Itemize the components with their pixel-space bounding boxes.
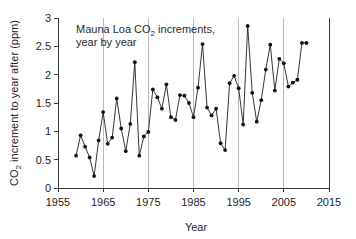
data-point: [255, 120, 259, 124]
data-point: [250, 91, 254, 95]
data-point: [300, 41, 304, 45]
y-axis-title: CO2 increment to year after (ppm): [8, 20, 23, 186]
co2-increment-series-line: [76, 26, 306, 176]
data-point: [196, 86, 200, 90]
data-point: [101, 110, 105, 114]
x-tick-label-2015: 2015: [317, 196, 341, 208]
data-point: [97, 139, 101, 143]
data-point: [119, 127, 123, 131]
y-tick-marks-group: [54, 18, 58, 188]
y-tick-labels-group: 00.511.522.53: [36, 12, 51, 194]
data-point: [282, 61, 286, 65]
data-point: [291, 81, 295, 85]
data-point: [110, 136, 114, 140]
data-point: [146, 130, 150, 134]
data-point: [295, 78, 299, 82]
data-point: [74, 154, 78, 158]
x-tick-label-2005: 2005: [272, 196, 296, 208]
data-point: [286, 85, 290, 89]
data-point: [241, 123, 245, 127]
data-point: [205, 106, 209, 110]
data-point: [187, 101, 191, 105]
data-point: [169, 115, 173, 119]
co2-increment-line-chart: 00.511.522.53 19551965197519851995200520…: [0, 0, 356, 239]
data-point: [305, 41, 309, 45]
x-tick-marks-group: [58, 188, 329, 192]
data-point: [183, 94, 187, 98]
data-point: [155, 95, 159, 99]
x-tick-label-1975: 1975: [136, 196, 160, 208]
y-tick-label-2: 2: [45, 69, 51, 81]
data-point: [268, 43, 272, 47]
y-tick-label-1.5: 1.5: [36, 97, 51, 109]
x-tick-label-1995: 1995: [226, 196, 250, 208]
x-tick-labels-group: 1955196519751985199520052015: [46, 196, 341, 208]
data-point: [214, 107, 218, 111]
data-point: [79, 133, 83, 137]
x-tick-label-1965: 1965: [91, 196, 115, 208]
chart-annotation-line-2: year by year: [76, 36, 137, 48]
chart-figure: 00.511.522.53 19551965197519851995200520…: [0, 0, 356, 239]
data-point: [151, 88, 155, 92]
data-point: [210, 114, 214, 118]
y-tick-label-1: 1: [45, 125, 51, 137]
data-point: [277, 57, 281, 61]
data-point: [174, 118, 178, 122]
data-point: [219, 141, 223, 145]
data-point: [264, 68, 268, 72]
data-point: [142, 135, 146, 139]
data-point: [223, 148, 227, 152]
data-point: [237, 86, 241, 90]
data-point: [124, 149, 128, 153]
data-point: [160, 107, 164, 111]
data-point: [115, 97, 119, 101]
data-point: [106, 142, 110, 146]
x-tick-label-1985: 1985: [181, 196, 205, 208]
data-point: [178, 93, 182, 97]
data-point: [137, 154, 141, 158]
data-point: [201, 42, 205, 46]
x-axis-title: Year: [185, 221, 208, 233]
data-point: [83, 145, 87, 149]
data-point: [133, 60, 137, 64]
data-point: [273, 89, 277, 93]
data-point: [232, 74, 236, 78]
data-point: [88, 156, 92, 160]
y-tick-label-0.5: 0.5: [36, 154, 51, 166]
data-point: [246, 24, 250, 28]
data-point: [128, 122, 132, 126]
y-tick-label-3: 3: [45, 12, 51, 24]
y-tick-label-0: 0: [45, 182, 51, 194]
data-point: [165, 82, 169, 86]
y-tick-label-2.5: 2.5: [36, 40, 51, 52]
data-point: [228, 81, 232, 85]
data-point: [192, 115, 196, 119]
x-tick-label-1955: 1955: [46, 196, 70, 208]
data-point: [92, 174, 96, 178]
data-point: [259, 98, 263, 102]
